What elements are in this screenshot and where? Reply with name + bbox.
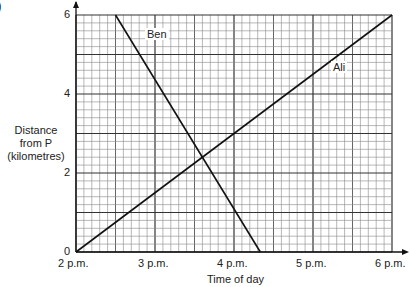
y-axis-title-line: from P	[2, 137, 70, 150]
x-axis-title: Time of day	[207, 273, 264, 285]
x-tick-2pm: 2 p.m.	[58, 257, 89, 269]
series-label-ali: Ali	[331, 61, 347, 73]
x-tick-3pm: 3 p.m.	[138, 257, 169, 269]
y-axis-title-line: Distance	[2, 124, 70, 137]
x-tick-5pm: 5 p.m.	[296, 257, 327, 269]
x-tick-6pm: 6 p.m.	[375, 257, 406, 269]
y-tick-4: 4	[64, 87, 70, 99]
series-label-ben: Ben	[145, 28, 169, 40]
x-tick-4pm: 4 p.m.	[217, 257, 248, 269]
y-axis-title-line: (kilometres)	[2, 150, 70, 163]
y-axis-title: Distance from P (kilometres)	[2, 124, 70, 163]
y-tick-2: 2	[64, 166, 70, 178]
y-tick-0: 0	[64, 245, 70, 257]
y-tick-6: 6	[64, 8, 70, 20]
